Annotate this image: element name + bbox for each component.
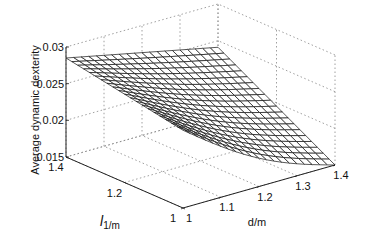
tick-label: 1.1 [219,201,234,213]
tick-label: 0.02 [43,114,64,126]
z-axis-label: Average dynamic dexterity [29,45,41,175]
tick-label: 0.03 [43,41,64,53]
tick-label: 1 [186,212,192,224]
tick-label: 1.2 [257,191,272,203]
x-axis-label: d/m [248,216,266,228]
surface-chart: 11.11.21.31.411.21.40.0150.020.0250.03 A… [0,0,372,240]
tick-label: 1.3 [295,180,310,192]
tick-label: 1.4 [333,169,348,181]
tick-label: 1.2 [107,187,122,199]
y-axis-label: l1/m [100,213,120,231]
y-axis-label-sub: 1/m [103,220,120,231]
tick-label: 1 [170,212,176,224]
